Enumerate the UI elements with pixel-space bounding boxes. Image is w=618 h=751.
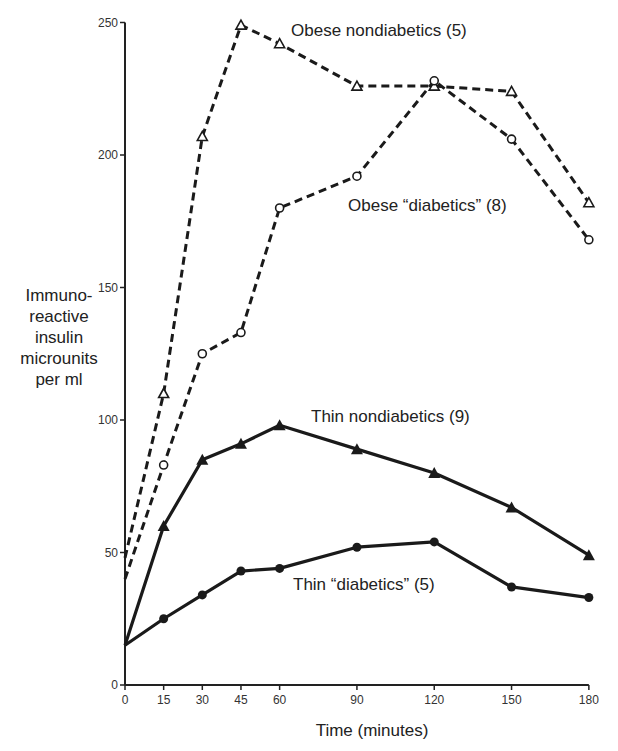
- label-thin-nondiabetics: Thin nondiabetics (9): [311, 407, 470, 426]
- y-axis-title-line: per ml: [0, 369, 118, 390]
- y-axis-title-line: microunits: [0, 348, 118, 369]
- series-0: [125, 20, 594, 558]
- x-tick-label: 150: [502, 693, 522, 707]
- series-1: [125, 77, 593, 579]
- open-circle-marker: [508, 135, 516, 143]
- filled-circle-marker: [352, 543, 361, 552]
- open-triangle-marker: [159, 389, 169, 398]
- open-triangle-marker: [507, 86, 517, 95]
- filled-circle-marker: [159, 614, 168, 623]
- filled-circle-marker: [236, 567, 245, 576]
- series-2: [125, 419, 595, 645]
- y-tick-label: 200: [98, 148, 118, 162]
- x-tick-label: 15: [157, 693, 171, 707]
- x-tick-label: 0: [122, 693, 129, 707]
- y-axis-title: Immuno- reactive insulin microunits per …: [0, 285, 118, 390]
- y-axis-title-line: insulin: [0, 327, 118, 348]
- y-tick-label: 0: [111, 678, 118, 692]
- open-circle-marker: [160, 461, 168, 469]
- open-circle-marker: [430, 77, 438, 85]
- filled-circle-marker: [584, 593, 593, 602]
- x-axis-title: Time (minutes): [316, 721, 429, 740]
- label-obese-diabetics: Obese “diabetics” (8): [348, 196, 507, 215]
- x-tick-label: 30: [196, 693, 210, 707]
- y-tick-label: 100: [98, 413, 118, 427]
- label-thin-diabetics: Thin “diabetics” (5): [293, 575, 435, 594]
- filled-circle-marker: [430, 537, 439, 546]
- open-triangle-marker: [197, 131, 207, 140]
- y-tick-label: 250: [98, 16, 118, 30]
- open-circle-marker: [237, 329, 245, 337]
- x-tick-label: 120: [424, 693, 444, 707]
- series-group: [125, 20, 595, 645]
- series-line: [125, 81, 589, 579]
- filled-circle-marker: [198, 590, 207, 599]
- y-axis-title-line: Immuno-: [0, 285, 118, 306]
- filled-circle-marker: [275, 564, 284, 573]
- y-tick-label: 50: [105, 546, 119, 560]
- y-axis-title-line: reactive: [0, 306, 118, 327]
- x-tick-label: 60: [273, 693, 287, 707]
- series-line: [125, 25, 589, 558]
- open-circle-marker: [276, 204, 284, 212]
- filled-circle-marker: [507, 582, 516, 591]
- x-tick-label: 90: [350, 693, 364, 707]
- filled-triangle-marker: [274, 419, 286, 430]
- open-triangle-marker: [236, 20, 246, 29]
- open-circle-marker: [585, 236, 593, 244]
- axes: 05010015020025001530456090120150180: [98, 16, 599, 708]
- x-tick-label: 180: [579, 693, 599, 707]
- open-circle-marker: [198, 350, 206, 358]
- label-obese-nondiabetics: Obese nondiabetics (5): [291, 21, 467, 40]
- series-line: [125, 425, 589, 645]
- open-circle-marker: [353, 172, 361, 180]
- x-tick-label: 45: [234, 693, 248, 707]
